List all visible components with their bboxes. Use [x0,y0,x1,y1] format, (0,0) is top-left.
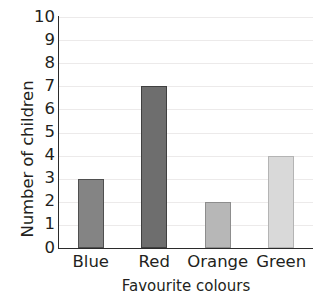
x-axis-tick-labels: BlueRedOrangeGreen [59,252,313,274]
x-tick-label-red: Red [123,252,187,272]
y-tick-label: 1 [0,216,55,233]
y-tick-label: 4 [0,147,55,164]
y-tick-label: 9 [0,32,55,49]
gridline [59,86,313,87]
x-tick-label-green: Green [250,252,314,272]
x-tick-label-orange: Orange [186,252,250,272]
gridline [59,109,313,110]
y-tick-label: 10 [0,9,55,26]
bar-red [141,86,167,248]
bar-orange [205,202,231,248]
plot-area [59,17,313,248]
gridline [59,133,313,134]
bar-blue [78,179,104,248]
gridline [59,40,313,41]
y-tick-label: 0 [0,240,55,257]
y-tick-label: 7 [0,78,55,95]
y-axis-tick-labels: 012345678910 [0,0,55,302]
y-tick-label: 3 [0,170,55,187]
x-tick-label-blue: Blue [59,252,123,272]
y-tick-label: 2 [0,193,55,210]
y-tick-label: 5 [0,124,55,141]
x-axis-baseline [59,248,313,249]
bar-chart: Number of children 012345678910 BlueRedO… [0,0,313,302]
bar-green [268,156,294,248]
y-tick-label: 8 [0,55,55,72]
gridline [59,63,313,64]
x-axis-title: Favourite colours [59,277,313,295]
y-tick-label: 6 [0,101,55,118]
gridline [59,17,313,18]
